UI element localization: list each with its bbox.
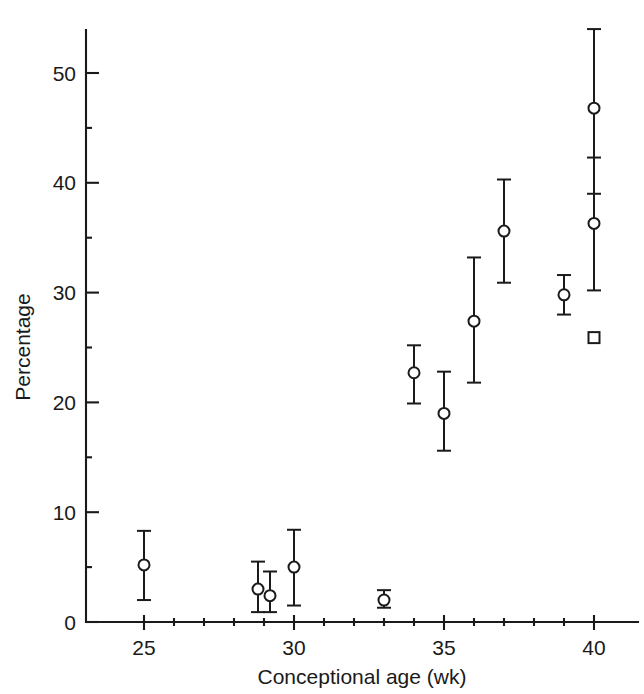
chart-figure: 01020304050 Percentage 25303540 Concepti… [0, 0, 644, 694]
data-point-group [497, 180, 511, 283]
data-point-group [437, 372, 451, 451]
y-tick-label: 0 [64, 611, 76, 634]
y-axis: 01020304050 Percentage [11, 30, 99, 634]
y-tick-label: 50 [53, 62, 76, 85]
y-tick-label: 10 [53, 501, 76, 524]
data-point-group [377, 590, 391, 608]
data-marker-square [589, 332, 600, 343]
y-axis-title: Percentage [11, 293, 34, 400]
x-tick-label: 30 [282, 636, 305, 659]
data-point-group [467, 257, 481, 382]
data-marker-circle [559, 289, 570, 300]
data-point-group [287, 530, 301, 606]
y-tick-label: 20 [53, 391, 76, 414]
x-axis-tick-labels: 25303540 [132, 636, 605, 659]
data-marker-circle [439, 408, 450, 419]
x-tick-label: 35 [432, 636, 455, 659]
data-points-layer [137, 29, 601, 612]
data-marker-circle [589, 218, 600, 229]
y-axis-tick-labels: 01020304050 [53, 62, 76, 634]
data-marker-circle [379, 595, 390, 606]
scatter-plot-canvas: 01020304050 Percentage 25303540 Concepti… [0, 0, 644, 694]
data-marker-circle [409, 367, 420, 378]
x-axis: 25303540 Conceptional age (wk) [86, 615, 638, 688]
data-point-group [557, 275, 571, 315]
x-tick-label: 40 [582, 636, 605, 659]
data-marker-circle [499, 226, 510, 237]
data-point-group [407, 345, 421, 403]
data-marker-circle [289, 562, 300, 573]
data-marker-circle [589, 103, 600, 114]
data-marker-circle [139, 559, 150, 570]
data-point-group [137, 531, 151, 600]
y-tick-label: 30 [53, 281, 76, 304]
data-marker-circle [469, 316, 480, 327]
x-axis-title: Conceptional age (wk) [258, 665, 467, 688]
data-point-group [589, 332, 600, 343]
x-tick-label: 25 [132, 636, 155, 659]
data-point-group [587, 158, 601, 291]
y-tick-label: 40 [53, 171, 76, 194]
data-point-group [251, 562, 265, 613]
data-marker-circle [253, 584, 264, 595]
data-marker-circle [265, 590, 276, 601]
data-point-group [263, 571, 277, 612]
